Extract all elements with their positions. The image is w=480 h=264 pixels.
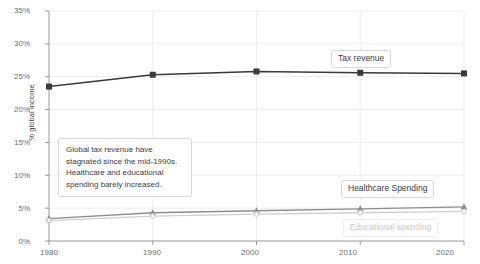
series-label-tax-revenue[interactable]: Tax revenue xyxy=(331,50,391,68)
series-label-educational-spending[interactable]: Educational spending xyxy=(343,219,438,237)
gridlines xyxy=(49,11,464,241)
y-tick-label-35: 35% xyxy=(2,6,30,15)
series-label-healthcare-spending[interactable]: Healthcare Spending xyxy=(341,180,434,198)
line-chart: % global income 35% 30% 25% 20% 15% 10% … xyxy=(0,0,480,264)
y-tick-label-5: 5% xyxy=(2,204,30,213)
y-tick-label-20: 20% xyxy=(2,105,30,114)
y-tick-label-30: 30% xyxy=(2,39,30,48)
x-tick-label-1990: 1990 xyxy=(130,248,174,257)
x-tick-label-1980: 1980 xyxy=(27,248,71,257)
x-tick-label-2020: 2020 xyxy=(423,248,467,257)
y-tick-label-25: 25% xyxy=(2,72,30,81)
x-tick-label-2010: 2010 xyxy=(326,248,370,257)
y-tick-label-10: 10% xyxy=(2,171,30,180)
y-tick-label-15: 15% xyxy=(2,138,30,147)
x-tick-label-2000: 2000 xyxy=(228,248,272,257)
tick-marks xyxy=(45,11,464,245)
annotation-note: Global tax revenue have stagnated since … xyxy=(58,138,192,197)
y-tick-label-0: 0% xyxy=(2,237,30,246)
